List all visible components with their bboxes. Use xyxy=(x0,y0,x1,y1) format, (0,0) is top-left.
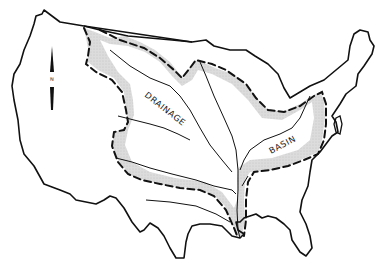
red-river xyxy=(146,200,230,222)
us-map: DRAINAGE BASIN N xyxy=(0,0,384,269)
north-arrow-icon: N xyxy=(50,46,54,110)
north-arrow-label: N xyxy=(50,76,54,82)
basin-shading xyxy=(84,28,325,236)
label-drainage: DRAINAGE xyxy=(143,90,188,128)
